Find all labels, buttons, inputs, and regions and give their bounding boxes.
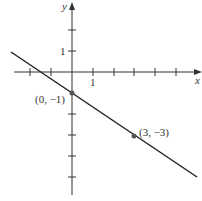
y-axis-arrow-icon: [69, 2, 75, 10]
point-3-neg3-label: (3, −3): [139, 126, 169, 139]
point-0-neg1-label: (0, −1): [35, 93, 65, 106]
x-ticks: 1: [30, 68, 176, 88]
point-3-neg3: [132, 134, 137, 139]
graph-line: [11, 52, 197, 177]
x-axis-label: x: [194, 74, 200, 86]
x-tick-label-1: 1: [90, 76, 96, 88]
coordinate-plane: x 1 y 1 (0, −1) (3, −3): [0, 0, 202, 201]
x-axis: x: [14, 69, 202, 86]
point-0-neg1: [70, 91, 75, 96]
y-tick-label-1: 1: [60, 45, 66, 57]
y-axis-label: y: [61, 0, 67, 12]
